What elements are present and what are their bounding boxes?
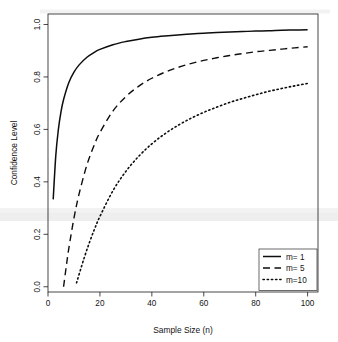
x-axis-ticks: 020406080100	[46, 292, 315, 308]
x-tick-label: 60	[199, 299, 209, 308]
x-tick-label: 40	[147, 299, 157, 308]
x-tick-label: 80	[251, 299, 261, 308]
data-series-group	[53, 30, 307, 287]
scan-artifact-top	[40, 10, 330, 14]
x-tick-label: 100	[301, 299, 315, 308]
y-axis-title: Confidence Level	[9, 121, 19, 186]
y-tick-label: 0.2	[33, 228, 42, 240]
x-axis-title: Sample Size (n)	[153, 325, 213, 335]
scan-artifact-middle	[0, 212, 338, 221]
legend-label-1: m= 1	[286, 253, 305, 262]
scan-artifact-middle-soft	[0, 208, 338, 213]
series-line-2	[64, 47, 308, 287]
series-line-3	[77, 84, 308, 283]
plot-canvas: 020406080100 0.00.20.40.60.81.0 m= 1m= 5…	[0, 0, 338, 342]
y-tick-label: 0.8	[33, 71, 42, 83]
series-line-1	[53, 30, 307, 200]
x-tick-label: 20	[95, 299, 105, 308]
x-tick-label: 0	[46, 299, 51, 308]
y-tick-label: 0.6	[33, 123, 42, 135]
legend-label-3: m=10	[286, 276, 307, 285]
y-tick-label: 0.4	[33, 176, 42, 188]
chart-figure: 020406080100 0.00.20.40.60.81.0 m= 1m= 5…	[0, 0, 338, 342]
series-legend: m= 1m= 5m=10	[259, 249, 317, 291]
y-axis-ticks: 0.00.20.40.60.81.0	[33, 18, 48, 292]
y-tick-label: 0.0	[33, 281, 42, 293]
legend-label-2: m= 5	[286, 264, 305, 273]
y-tick-label: 1.0	[33, 18, 42, 30]
